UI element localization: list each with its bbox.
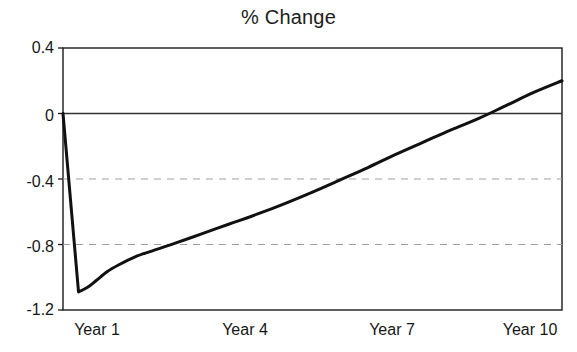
plot-area [0,0,577,352]
y-axis-tick-marks [58,48,63,310]
chart-figure: % Change 0.4 0 -0.4 -0.8 -1.2 Year 1 Yea… [0,0,577,352]
